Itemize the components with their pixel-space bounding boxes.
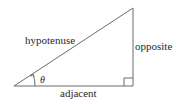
triangle [14, 8, 133, 86]
right-triangle-diagram: hypotenuse opposite adjacent θ [0, 0, 178, 104]
hypotenuse-label: hypotenuse [25, 34, 75, 46]
angle-theta-label: θ [40, 74, 45, 85]
adjacent-label: adjacent [60, 87, 97, 99]
opposite-label: opposite [135, 40, 172, 52]
right-angle-marker [124, 78, 133, 86]
